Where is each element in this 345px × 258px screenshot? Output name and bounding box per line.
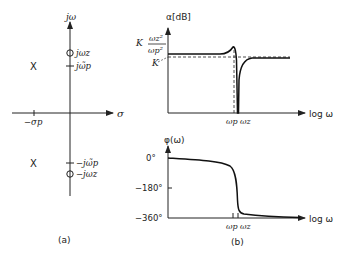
real-axis-label: σ [117,108,125,119]
upper-zero-label: jωz [74,48,91,58]
phase-omega-z-label: ωz [240,222,252,231]
panel-b-phase-plot: φ(ω) log ω 0° −180° −360° ωp ωz (b) [135,135,333,247]
upper-level-k: K [135,38,144,48]
magnitude-x-label: log ω [309,109,333,119]
magnitude-omega-p-label: ωp [226,117,238,126]
upper-pole-marker: X [30,61,37,72]
imag-axis-label: jω [64,12,77,22]
magnitude-y-label: α[dB] [166,12,191,22]
phase-curve [168,158,300,218]
lower-pole-marker: X [30,158,37,169]
phase-omega-p-label: ωp [226,222,238,231]
upper-level-numerator: ωz² [149,34,163,43]
lower-level-leader [158,57,168,62]
panel-b-caption: (b) [231,237,244,247]
phase-x-label: log ω [309,214,333,224]
lower-zero-label: −jωz [76,169,98,179]
panel-b-magnitude-plot: α[dB] log ω K ωz² ωp² K ωp ωz [135,12,333,126]
lower-level-k: K [151,58,160,68]
figure-canvas: jω σ −σp X X jωz jω̃p −jω̃p −jωz (a) α[d… [0,0,345,258]
phase-y-label: φ(ω) [164,135,185,145]
panel-a-caption: (a) [58,235,71,245]
lower-pole-imag-label: −jω̃p [76,158,99,168]
sigma-p-label: −σp [24,117,43,127]
upper-level-denominator: ωp² [148,46,163,55]
phase-tick-180: −180° [135,183,163,193]
panel-a-pole-zero-plot: jω σ −σp X X jωz jω̃p −jω̃p −jωz (a) [12,12,125,245]
magnitude-omega-z-label: ωz [240,117,252,126]
phase-tick-0: 0° [146,153,156,163]
upper-pole-imag-label: jω̃p [74,61,92,71]
phase-tick-360: −360° [135,213,163,223]
